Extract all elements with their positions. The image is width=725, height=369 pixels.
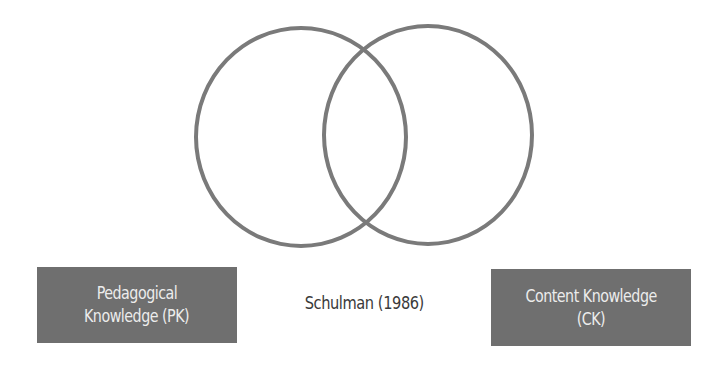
pedagogical-knowledge-label-box: Pedagogical Knowledge (PK): [37, 267, 237, 343]
caption-text: Schulman (1986): [304, 293, 423, 313]
content-knowledge-label-line1: Content Knowledge: [525, 285, 656, 308]
content-knowledge-circle: [322, 24, 534, 246]
content-knowledge-label-line2: (CK): [577, 308, 605, 331]
content-knowledge-label-box: Content Knowledge (CK): [491, 269, 691, 346]
diagram-caption: Schulman (1986): [290, 293, 438, 313]
pedagogical-knowledge-label-line2: Knowledge (PK): [84, 305, 189, 328]
venn-diagram: Pedagogical Knowledge (PK) Schulman (198…: [0, 0, 725, 369]
pedagogical-knowledge-label-line1: Pedagogical: [97, 282, 178, 305]
